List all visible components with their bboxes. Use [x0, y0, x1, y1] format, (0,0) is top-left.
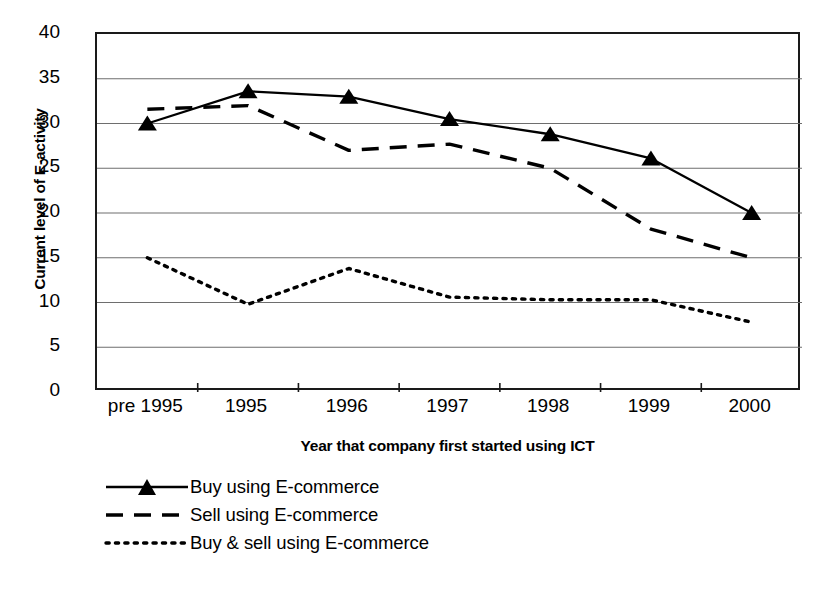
series-line — [147, 106, 751, 258]
plot-svg — [97, 34, 802, 392]
legend-label: Sell using E-commerce — [190, 504, 378, 526]
y-tick-label: 40 — [14, 22, 60, 41]
legend-swatch-dotted — [104, 531, 190, 555]
x-axis-title: Year that company first started using IC… — [95, 437, 800, 455]
legend-label: Buy & sell using E-commerce — [190, 532, 429, 554]
x-axis-tick-labels: pre 1995199519961997199819992000 — [95, 396, 800, 426]
chart-legend: Buy using E-commerceSell using E-commerc… — [104, 473, 534, 557]
legend-item[interactable]: Buy using E-commerce — [104, 473, 534, 501]
plot-area — [95, 32, 800, 390]
legend-label: Buy using E-commerce — [190, 476, 379, 498]
y-tick-label: 0 — [14, 380, 60, 399]
x-tick-label: 1998 — [498, 396, 599, 415]
x-tick-label: pre 1995 — [95, 396, 196, 415]
legend-swatch-dashed — [104, 503, 190, 527]
series-line — [147, 91, 751, 213]
x-tick-label: 2000 — [699, 396, 800, 415]
x-tick-label: 1995 — [196, 396, 297, 415]
legend-item[interactable]: Sell using E-commerce — [104, 501, 534, 529]
y-axis-tick-labels: 0510152025303540 — [14, 0, 60, 591]
y-tick-label: 25 — [14, 156, 60, 175]
y-tick-label: 30 — [14, 112, 60, 131]
y-tick-label: 20 — [14, 201, 60, 220]
series-line — [147, 258, 751, 322]
y-tick-label: 15 — [14, 246, 60, 265]
x-tick-label: 1999 — [599, 396, 700, 415]
chart-figure: Current level of E-activity 051015202530… — [0, 0, 815, 591]
x-tick-label: 1996 — [296, 396, 397, 415]
legend-item[interactable]: Buy & sell using E-commerce — [104, 529, 534, 557]
y-tick-label: 10 — [14, 291, 60, 310]
x-tick-label: 1997 — [397, 396, 498, 415]
y-tick-label: 35 — [14, 67, 60, 86]
series-markers — [138, 83, 761, 220]
legend-swatch-solid — [104, 475, 190, 499]
y-tick-label: 5 — [14, 335, 60, 354]
